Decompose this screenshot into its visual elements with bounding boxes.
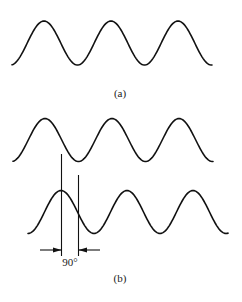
sine-wave-a: [12, 21, 212, 65]
panel-a-label: (a): [114, 87, 127, 100]
dimension-arrow-left: [40, 248, 62, 253]
phase-angle-label: 90°: [62, 256, 77, 268]
sine-wave-b-reference: [13, 119, 213, 162]
panel-b-label: (b): [114, 272, 127, 285]
dimension-arrow-right: [78, 248, 100, 253]
phase-shift-diagram: (a) 90° (b): [0, 0, 242, 302]
sine-wave-b-shifted: [28, 191, 228, 234]
